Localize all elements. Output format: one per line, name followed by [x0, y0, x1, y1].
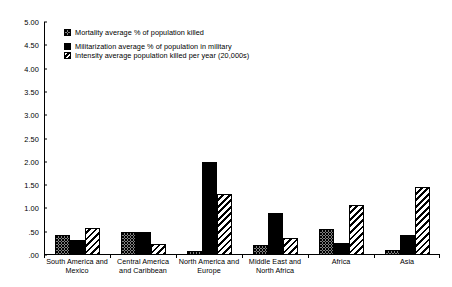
y-axis-tick-label: .50 [28, 227, 44, 236]
y-axis-tick-label: 1.50 [24, 181, 44, 190]
bar [400, 235, 415, 256]
y-axis-tick-label: .00 [28, 251, 44, 260]
bar [385, 250, 400, 255]
legend-item-intensity: Intensity average population killed per … [64, 51, 294, 60]
bar [136, 232, 151, 255]
bar [319, 229, 334, 255]
bar [217, 194, 232, 255]
bar [85, 228, 100, 255]
bar [283, 238, 298, 255]
chart-legend: Mortality average % of population killed… [64, 28, 294, 65]
y-axis-tick-label: 4.50 [24, 41, 44, 50]
y-axis-tick-label: 2.00 [24, 157, 44, 166]
y-axis-tick-label: 1.00 [24, 204, 44, 213]
y-axis-tick-label: 5.00 [24, 18, 44, 27]
legend-item-mortality: Mortality average % of population killed [64, 28, 294, 37]
x-axis-category-label: South America and Mexico [44, 257, 110, 276]
legend-swatch-hatch-icon [64, 52, 71, 59]
bar [151, 244, 166, 255]
bar [415, 187, 430, 256]
legend-item-militarization: Militarization average % of population i… [64, 42, 294, 51]
x-axis-category-label: Middle East and North Africa [242, 257, 308, 276]
x-axis-category-label: Central America and Caribbean [110, 257, 176, 276]
legend-swatch-dotted-icon [64, 29, 71, 36]
bar [253, 245, 268, 255]
bar-group [374, 22, 440, 255]
legend-swatch-solid-icon [64, 43, 71, 50]
y-axis-tick-label: 3.50 [24, 87, 44, 96]
legend-label: Militarization average % of population i… [75, 42, 232, 51]
bar-chart: 5.004.504.003.503.002.502.001.501.00.50.… [0, 0, 452, 287]
x-axis-category-label: North America and Europe [176, 257, 242, 276]
bar [349, 205, 364, 255]
legend-label: Intensity average population killed per … [75, 51, 249, 60]
y-axis-tick-label: 2.50 [24, 134, 44, 143]
x-axis-category-label: Africa [308, 257, 374, 276]
bar [334, 243, 349, 255]
bar [70, 240, 85, 255]
y-axis-tick-label: 4.00 [24, 64, 44, 73]
y-axis-tick-label: 3.00 [24, 111, 44, 120]
bar [268, 213, 283, 255]
bar [55, 235, 70, 255]
bar [121, 232, 136, 255]
bar-group [308, 22, 374, 255]
x-axis-category-label: Asia [374, 257, 440, 276]
bar [202, 162, 217, 255]
legend-label: Mortality average % of population killed [75, 28, 204, 37]
x-axis-category-labels: South America and MexicoCentral America … [44, 257, 440, 276]
bar [187, 251, 202, 255]
